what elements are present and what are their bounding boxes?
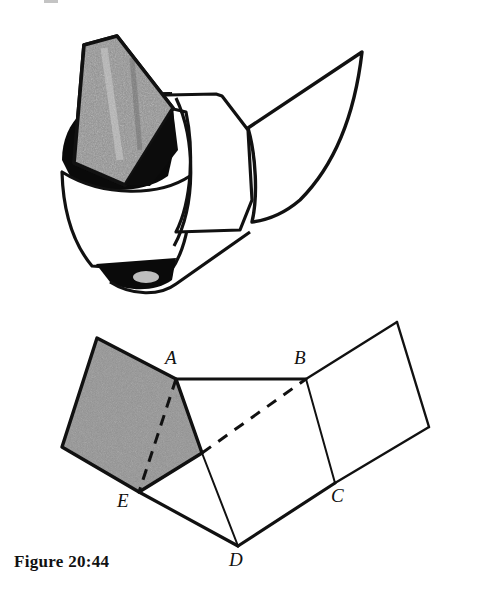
- figure-20-44: [0, 0, 480, 603]
- lower-highlight-patch: [133, 271, 159, 283]
- line-diagram-panel: [62, 322, 429, 546]
- edge-E-D: [139, 492, 238, 546]
- vertex-label-A: A: [165, 348, 177, 367]
- edge-rtop-rright: [397, 322, 429, 427]
- crop-artifact-mark: [44, 0, 58, 3]
- vertex-label-D: D: [229, 550, 243, 569]
- vertex-label-C: C: [331, 486, 344, 505]
- model-right-wing: [248, 52, 362, 222]
- edge-B-rtop: [306, 322, 397, 379]
- edge-C-rright: [335, 427, 429, 483]
- shaded-face: [62, 338, 202, 492]
- edge-B-C: [306, 379, 335, 483]
- vertex-label-B: B: [294, 348, 306, 367]
- figure-caption: Figure 20:44: [14, 552, 109, 572]
- photo-model-panel: [44, 0, 362, 293]
- vertex-label-E: E: [117, 491, 129, 510]
- fold-mid-B: [202, 379, 306, 453]
- edge-D-C: [238, 483, 335, 546]
- edge-mid-D: [202, 453, 238, 546]
